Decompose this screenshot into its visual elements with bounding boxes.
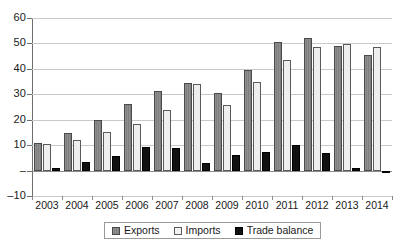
bar-imports-2003: [43, 144, 51, 171]
bar-exports-2007: [154, 91, 162, 170]
bar-imports-2008: [193, 84, 201, 170]
bar-exports-2005: [94, 120, 102, 170]
bar-exports-2006: [124, 104, 132, 171]
y-tick-label-30: 30: [14, 88, 26, 99]
legend-swatch-icon-exports: [112, 227, 120, 235]
bar-exports-2008: [184, 83, 192, 170]
bar-trade-balance-2010: [262, 152, 270, 170]
bar-exports-2014: [364, 55, 372, 170]
x-tick-label-2012: 2012: [302, 199, 332, 211]
y-tick-label-10: 10: [14, 139, 26, 150]
bar-trade-balance-2008: [202, 163, 210, 170]
chart-legend: ExportsImportsTrade balance: [104, 222, 321, 239]
bar-trade-balance-2003: [52, 168, 60, 171]
bar-exports-2010: [244, 70, 252, 170]
bar-imports-2005: [103, 132, 111, 170]
bar-imports-2011: [283, 60, 291, 171]
gridline-50: [32, 43, 392, 44]
x-tick-label-2011: 2011: [272, 199, 302, 211]
bar-trade-balance-2012: [322, 153, 330, 171]
bar-trade-balance-2011: [292, 145, 300, 170]
bar-imports-2006: [133, 124, 141, 170]
bar-trade-balance-2007: [172, 148, 180, 171]
bar-imports-2013: [343, 44, 351, 171]
plot-area: [32, 18, 392, 196]
gridline-60: [32, 18, 392, 19]
legend-swatch-icon-imports: [174, 227, 182, 235]
x-tick-label-2003: 2003: [32, 199, 62, 211]
legend-label: Trade balance: [247, 225, 314, 236]
x-tick-label-2009: 2009: [212, 199, 242, 211]
bar-imports-2007: [163, 110, 171, 171]
bar-trade-balance-2009: [232, 155, 240, 171]
x-tick-label-2007: 2007: [152, 199, 182, 211]
bar-exports-2009: [214, 93, 222, 171]
bar-trade-balance-2006: [142, 147, 150, 171]
bar-exports-2004: [64, 133, 72, 171]
y-tick-label-0: –: [20, 165, 26, 176]
bar-chart: 605040302010––10 20032004200520062007200…: [0, 0, 400, 246]
legend-swatch-icon-trade-balance: [235, 227, 243, 235]
bar-imports-2009: [223, 105, 231, 170]
legend-item-imports[interactable]: Imports: [174, 225, 221, 236]
bar-imports-2010: [253, 82, 261, 170]
bar-exports-2012: [304, 38, 312, 171]
y-tick-label-40: 40: [14, 63, 26, 74]
gridline-0: [32, 171, 392, 172]
x-tick-label-2006: 2006: [122, 199, 152, 211]
bar-exports-2003: [34, 143, 42, 171]
legend-item-trade-balance[interactable]: Trade balance: [235, 225, 314, 236]
bar-imports-2004: [73, 140, 81, 171]
x-tick-label-2008: 2008: [182, 199, 212, 211]
y-tick-label-20: 20: [14, 114, 26, 125]
bar-imports-2014: [373, 47, 381, 170]
legend-item-exports[interactable]: Exports: [112, 225, 160, 236]
y-tick-label-50: 50: [14, 37, 26, 48]
x-tick-label-2013: 2013: [332, 199, 362, 211]
bar-trade-balance-2013: [352, 168, 360, 171]
x-tick-label-2014: 2014: [362, 199, 392, 211]
bar-trade-balance-2005: [112, 156, 120, 170]
bar-exports-2011: [274, 42, 282, 171]
x-tick-mark-12: [392, 196, 393, 200]
bar-exports-2013: [334, 46, 342, 170]
legend-label: Imports: [186, 225, 221, 236]
bar-imports-2012: [313, 47, 321, 170]
y-tick-label--10: –10: [7, 190, 26, 201]
bar-trade-balance-2004: [82, 162, 90, 170]
bar-trade-balance-2014: [382, 171, 390, 173]
y-tick-label-60: 60: [14, 12, 26, 23]
x-tick-label-2005: 2005: [92, 199, 122, 211]
legend-label: Exports: [124, 225, 160, 236]
x-tick-label-2004: 2004: [62, 199, 92, 211]
x-tick-label-2010: 2010: [242, 199, 272, 211]
